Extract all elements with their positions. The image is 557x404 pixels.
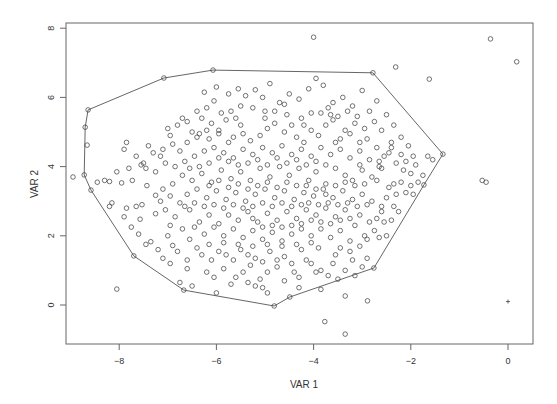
data-point — [202, 149, 207, 154]
data-point — [236, 182, 241, 187]
data-point — [231, 258, 236, 263]
data-point — [173, 164, 178, 169]
data-point — [294, 183, 299, 188]
data-point — [195, 246, 200, 251]
outlier-point — [427, 77, 432, 82]
data-point — [294, 242, 299, 247]
x-axis-label: VAR 1 — [290, 379, 319, 390]
data-point — [129, 225, 134, 230]
data-point — [377, 235, 382, 240]
data-point — [204, 270, 209, 275]
data-point — [358, 140, 363, 145]
data-point — [217, 178, 222, 183]
data-point — [207, 137, 212, 142]
data-point — [379, 209, 384, 214]
y-tick-label: 6 — [46, 95, 56, 100]
data-point — [238, 247, 243, 252]
data-point — [394, 161, 399, 166]
data-point — [153, 211, 158, 216]
data-point — [275, 265, 280, 270]
data-point — [297, 275, 302, 280]
data-point — [251, 216, 256, 221]
data-point — [265, 270, 270, 275]
data-point — [302, 190, 307, 195]
data-point — [297, 166, 302, 171]
data-point — [268, 175, 273, 180]
data-point — [379, 128, 384, 133]
data-point — [255, 220, 260, 225]
data-point — [309, 234, 314, 239]
data-point — [268, 249, 273, 254]
data-point — [110, 201, 115, 206]
data-point — [134, 154, 139, 159]
data-point — [246, 187, 251, 192]
data-point — [219, 168, 224, 173]
data-point — [115, 170, 120, 175]
data-point — [180, 116, 185, 121]
data-point — [163, 208, 168, 213]
outlier-point — [365, 299, 370, 304]
data-point — [170, 142, 175, 147]
data-point — [328, 112, 333, 117]
data-point — [331, 118, 336, 123]
data-point — [231, 156, 236, 161]
data-point — [180, 173, 185, 178]
data-point — [163, 161, 168, 166]
data-point — [324, 206, 329, 211]
data-point — [289, 223, 294, 228]
data-point — [401, 168, 406, 173]
data-point — [333, 166, 338, 171]
data-point — [236, 87, 241, 92]
data-point — [289, 204, 294, 209]
data-point — [161, 256, 166, 261]
data-point — [217, 249, 222, 254]
data-point — [336, 114, 341, 119]
data-point — [404, 190, 409, 195]
data-point — [289, 152, 294, 157]
data-point — [170, 243, 175, 248]
data-point — [166, 234, 171, 239]
data-point — [314, 213, 319, 218]
data-point — [212, 99, 217, 104]
data-point — [226, 185, 231, 190]
data-point — [219, 111, 224, 116]
data-point — [238, 123, 243, 128]
data-point — [212, 275, 217, 280]
x-axis: −8−6−4−20 — [114, 344, 510, 366]
data-point — [292, 270, 297, 275]
data-point — [107, 179, 112, 184]
data-point — [326, 106, 331, 111]
data-point — [294, 157, 299, 162]
data-point — [326, 201, 331, 206]
data-point — [168, 261, 173, 266]
data-point — [212, 145, 217, 150]
data-point — [326, 273, 331, 278]
plus-marker-point — [506, 300, 510, 304]
y-tick-label: 0 — [46, 302, 56, 307]
data-point — [255, 183, 260, 188]
data-point — [251, 204, 256, 209]
data-point — [236, 163, 241, 168]
data-point — [178, 201, 183, 206]
data-point — [370, 175, 375, 180]
data-point — [289, 123, 294, 128]
data-point — [248, 138, 253, 143]
data-point — [406, 144, 411, 149]
data-point — [316, 202, 321, 207]
data-point — [236, 218, 241, 223]
data-point — [389, 218, 394, 223]
data-point — [324, 163, 329, 168]
data-point — [258, 166, 263, 171]
data-point — [280, 239, 285, 244]
data-point — [297, 97, 302, 102]
data-point — [404, 159, 409, 164]
data-point — [309, 128, 314, 133]
data-point — [389, 140, 394, 145]
data-point — [299, 116, 304, 121]
data-point — [384, 234, 389, 239]
data-point — [328, 235, 333, 240]
data-point — [379, 204, 384, 209]
data-point — [314, 76, 319, 81]
data-point — [192, 225, 197, 230]
data-point — [144, 166, 149, 171]
